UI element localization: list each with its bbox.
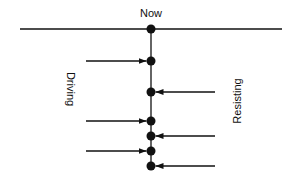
timeline-node [147,117,156,126]
timeline-node [147,132,156,141]
timeline-node [147,88,156,97]
timeline-node [147,57,156,66]
force-field-diagram [0,0,294,179]
driving-label: Driving [65,72,76,106]
timeline-node [147,162,156,171]
resisting-forces [156,92,216,166]
timeline-node [147,147,156,156]
now-label: Now [140,8,162,19]
driving-forces [86,61,147,151]
resisting-label: Resisting [232,78,243,123]
now-node [147,25,156,34]
